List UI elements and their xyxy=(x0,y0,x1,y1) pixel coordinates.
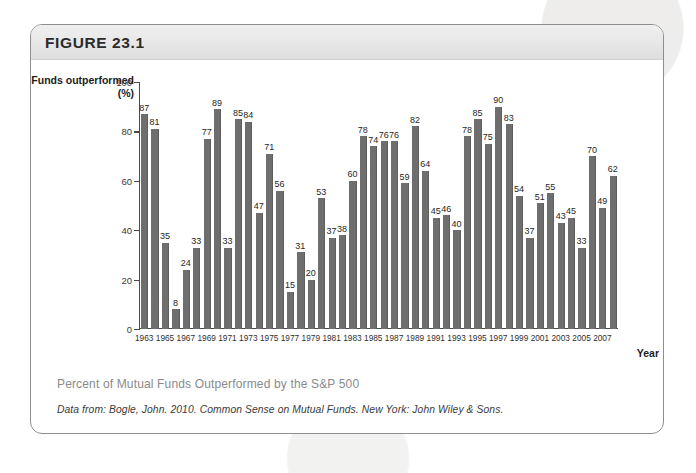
bar-value-label: 75 xyxy=(483,132,493,142)
bar-value-label: 77 xyxy=(202,127,212,137)
x-tick-label: 1983 xyxy=(343,333,361,343)
bar: 841973 xyxy=(245,122,252,329)
bar-value-label: 90 xyxy=(493,95,503,105)
bar: 53 xyxy=(318,198,325,329)
bar-value-label: 76 xyxy=(379,130,389,140)
x-tick-label: 1979 xyxy=(302,333,320,343)
x-axis-line xyxy=(139,328,618,329)
bar: 31 xyxy=(297,252,304,329)
bar-value-label: 78 xyxy=(462,125,472,135)
bar-value-label: 53 xyxy=(316,187,326,197)
bar-value-label: 56 xyxy=(275,179,285,189)
bar: 38 xyxy=(339,235,346,329)
bar: 451991 xyxy=(433,218,440,329)
bar-value-label: 54 xyxy=(514,184,524,194)
bar: 45 xyxy=(568,218,575,329)
bar-value-label: 78 xyxy=(358,125,368,135)
bar: 871963 xyxy=(141,114,148,329)
x-tick-label: 1963 xyxy=(135,333,153,343)
bar-value-label: 74 xyxy=(368,135,378,145)
bar-value-label: 20 xyxy=(306,268,316,278)
bar: 601983 xyxy=(349,181,356,329)
bar: 241967 xyxy=(183,270,190,329)
bar-value-label: 46 xyxy=(441,204,451,214)
bar-value-label: 84 xyxy=(243,110,253,120)
y-tick-mark xyxy=(134,181,140,182)
bar: 432003 xyxy=(558,223,565,329)
bar-value-label: 83 xyxy=(504,113,514,123)
bar-value-label: 85 xyxy=(472,108,482,118)
x-tick-label: 1993 xyxy=(447,333,465,343)
bar-value-label: 82 xyxy=(410,115,420,125)
bar-value-label: 81 xyxy=(150,117,160,127)
bar: 47 xyxy=(256,213,263,329)
bar: 76 xyxy=(381,141,388,329)
figure-caption: Percent of Mutual Funds Outperformed by … xyxy=(57,377,359,391)
bar-value-label: 45 xyxy=(566,206,576,216)
bar-value-label: 38 xyxy=(337,224,347,234)
bar-value-label: 87 xyxy=(139,103,149,113)
bar: 75 xyxy=(485,144,492,329)
x-tick-label: 1989 xyxy=(406,333,424,343)
y-tick-label: 60 xyxy=(121,175,132,186)
bar: 55 xyxy=(547,193,554,329)
bar: 332005 xyxy=(578,248,585,330)
bar-value-label: 33 xyxy=(577,236,587,246)
bar: 761987 xyxy=(391,141,398,329)
y-tick-label: 100 xyxy=(116,77,132,88)
plot-region: 020406080100 871963813519658241967337719… xyxy=(139,82,618,329)
bar-value-label: 89 xyxy=(212,98,222,108)
x-tick-label: 1987 xyxy=(385,333,403,343)
bar: 401993 xyxy=(453,230,460,329)
bar: 78 xyxy=(360,136,367,329)
x-tick-label: 1975 xyxy=(260,333,278,343)
x-tick-label: 1997 xyxy=(489,333,507,343)
bar: 331971 xyxy=(224,248,231,330)
chart-area: Funds outperformed (%) 020406080100 8719… xyxy=(31,60,664,365)
bar-value-label: 76 xyxy=(389,130,399,140)
y-tick-mark xyxy=(134,82,140,83)
x-tick-label: 1995 xyxy=(468,333,486,343)
y-tick-mark xyxy=(134,131,140,132)
bar: 741985 xyxy=(370,146,377,329)
bar: 83 xyxy=(506,124,513,329)
bar: 771969 xyxy=(204,139,211,329)
bar: 59 xyxy=(401,183,408,329)
bar-value-label: 51 xyxy=(535,192,545,202)
y-tick-label: 0 xyxy=(127,324,132,335)
bar-value-label: 37 xyxy=(524,226,534,236)
x-tick-label: 1973 xyxy=(239,333,257,343)
bar-value-label: 47 xyxy=(254,201,264,211)
bar: 201979 xyxy=(308,280,315,329)
bar: 851995 xyxy=(474,119,481,329)
y-tick-mark xyxy=(134,230,140,231)
bar: 56 xyxy=(276,191,283,329)
bar: 8 xyxy=(172,309,179,329)
x-tick-label: 1967 xyxy=(177,333,195,343)
figure-label: FIGURE 23.1 xyxy=(45,34,145,52)
x-tick-label: 1981 xyxy=(322,333,340,343)
y-tick-label: 20 xyxy=(121,274,132,285)
figure-box: FIGURE 23.1 Funds outperformed (%) 02040… xyxy=(30,24,664,434)
bar: 64 xyxy=(422,171,429,329)
bar: 512001 xyxy=(537,203,544,329)
bar: 492007 xyxy=(599,208,606,329)
bar-value-label: 37 xyxy=(327,226,337,236)
bar: 46 xyxy=(443,215,450,329)
bar: 85 xyxy=(235,119,242,329)
x-tick-label: 2001 xyxy=(531,333,549,343)
y-tick-label: 80 xyxy=(121,126,132,137)
bar-value-label: 59 xyxy=(400,172,410,182)
bar-value-label: 33 xyxy=(191,236,201,246)
x-tick-label: 1969 xyxy=(197,333,215,343)
y-tick-mark xyxy=(134,280,140,281)
x-tick-label: 1971 xyxy=(218,333,236,343)
bar: 351965 xyxy=(162,243,169,329)
bar-value-label: 8 xyxy=(173,298,178,308)
x-tick-label: 1965 xyxy=(156,333,174,343)
bar: 37 xyxy=(526,238,533,329)
bar-value-label: 49 xyxy=(597,196,607,206)
bar-value-label: 15 xyxy=(285,280,295,290)
bar: 901997 xyxy=(495,107,502,329)
bar-value-label: 70 xyxy=(587,145,597,155)
